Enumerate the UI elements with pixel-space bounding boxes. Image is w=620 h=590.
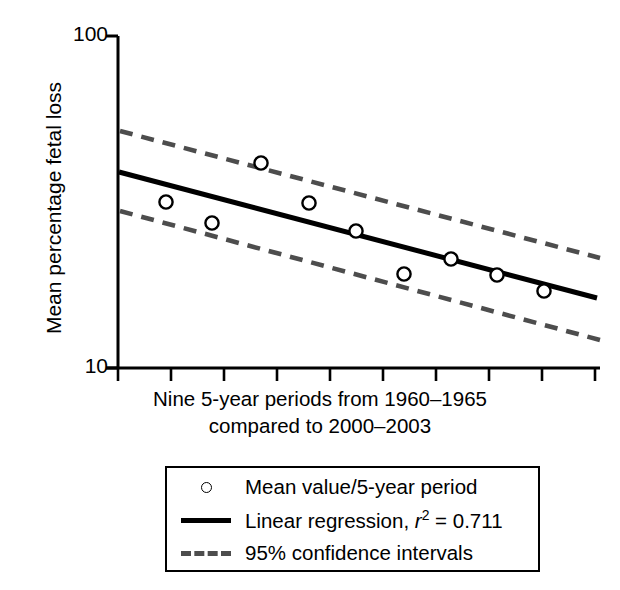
legend-label-mean-value: Mean value/5-year period	[245, 475, 477, 499]
data-point	[537, 284, 550, 297]
legend-label-regression-suffix: = 0.711	[429, 509, 502, 532]
figure-container: Mean percentage fetal loss 100 10	[0, 0, 620, 590]
legend-entry-mean-value: Mean value/5-year period	[167, 470, 538, 504]
x-axis-caption: Nine 5-year periods from 1960–1965 compa…	[60, 385, 580, 439]
legend-label-regression-prefix: Linear regression,	[245, 509, 415, 532]
legend-label-linear-regression: Linear regression, r2 = 0.711	[245, 507, 503, 533]
data-point	[490, 268, 503, 281]
data-point	[349, 224, 362, 237]
plot-area	[0, 0, 620, 400]
data-point	[159, 195, 172, 208]
data-point	[254, 156, 267, 169]
open-circle-marker-icon	[167, 470, 245, 504]
confidence-interval-upper-line	[120, 131, 600, 258]
legend-entry-linear-regression: Linear regression, r2 = 0.711	[167, 503, 538, 537]
legend-label-regression-variable: r	[415, 509, 422, 532]
data-point	[302, 196, 315, 209]
x-tick-marks	[118, 368, 595, 381]
x-axis-caption-line-1: Nine 5-year periods from 1960–1965	[60, 385, 580, 412]
dashed-line-marker-icon	[167, 536, 245, 570]
data-point	[205, 216, 218, 229]
x-axis-caption-line-2: compared to 2000–2003	[60, 412, 580, 439]
solid-line-marker-icon	[167, 503, 245, 537]
legend-label-confidence-intervals: 95% confidence intervals	[245, 541, 473, 565]
data-point	[444, 252, 457, 265]
legend-entry-confidence-intervals: 95% confidence intervals	[167, 536, 538, 570]
legend: Mean value/5-year period Linear regressi…	[165, 466, 540, 572]
data-point	[397, 267, 410, 280]
